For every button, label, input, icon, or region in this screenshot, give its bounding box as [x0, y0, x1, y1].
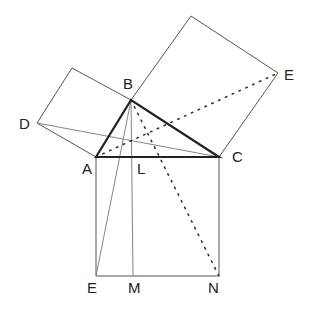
- square-on-ab: [37, 68, 131, 157]
- label-c: C: [232, 149, 243, 164]
- label-d: D: [19, 116, 30, 131]
- label-a: A: [82, 161, 92, 176]
- label-e-top: E: [284, 67, 294, 82]
- altitude-bm: [131, 100, 133, 276]
- label-m: M: [128, 280, 141, 295]
- dotted-line-bn: [131, 100, 219, 276]
- label-e-bottom: E: [87, 280, 97, 295]
- pythagoras-diagram: [0, 0, 310, 312]
- label-n: N: [208, 280, 219, 295]
- label-l: L: [137, 161, 145, 176]
- square-on-bc: [131, 16, 278, 157]
- square-on-ac: [96, 157, 219, 276]
- label-b: B: [123, 76, 133, 91]
